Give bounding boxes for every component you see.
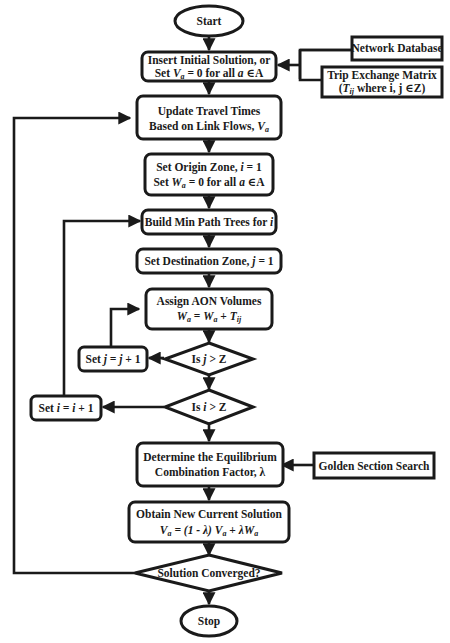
- determine-line2: Combination Factor, λ: [155, 466, 266, 478]
- origin-line2: Set Wa = 0 for all a ∈A: [153, 176, 265, 190]
- set-destination-zone-node: Set Destination Zone, j = 1: [137, 249, 281, 273]
- insert-initial-node: Insert Initial Solution, or Set Va = 0 f…: [142, 52, 276, 81]
- update-line2: Based on Link Flows, Va: [149, 120, 269, 134]
- stop-node: Stop: [181, 606, 237, 636]
- obtain-line1: Obtain New Current Solution: [136, 508, 282, 520]
- assign-aon-volumes-node: Assign AON Volumes Wa = Wa + Tij: [146, 289, 272, 329]
- flowchart: Start Insert Initial Solution, or Set Va…: [0, 0, 450, 643]
- update-travel-times-node: Update Travel Times Based on Link Flows,…: [137, 96, 281, 139]
- set-j-increment-node: Set j = j + 1: [79, 347, 147, 371]
- assign-line1: Assign AON Volumes: [157, 295, 262, 308]
- network-database-node: Network Database: [351, 37, 442, 60]
- trip-exchange-matrix-node: Trip Exchange Matrix (Tij where i, j ∈Z): [322, 67, 442, 97]
- build-label: Build Min Path Trees for i: [145, 216, 274, 228]
- insert-initial-line2: Set Va = 0 for all a ∈A: [155, 67, 264, 81]
- converged-label: Solution Converged?: [157, 567, 260, 580]
- set-origin-zone-node: Set Origin Zone, i = 1 Set Wa = 0 for al…: [145, 154, 273, 195]
- trip-matrix-line1: Trip Exchange Matrix: [327, 69, 437, 82]
- seti-label: Set i = i + 1: [39, 402, 94, 414]
- dest-label: Set Destination Zone, j = 1: [144, 255, 273, 268]
- insert-initial-line1: Insert Initial Solution, or: [148, 54, 271, 66]
- stop-label: Stop: [198, 615, 220, 628]
- golden-section-search-node: Golden Section Search: [314, 453, 434, 478]
- setj-label: Set j = j + 1: [86, 353, 141, 366]
- determine-equilibrium-node: Determine the Equilibrium Combination Fa…: [137, 443, 283, 486]
- obtain-line2: Va = (1 - λ) Va + λWa: [160, 524, 258, 538]
- network-database-label: Network Database: [351, 42, 442, 54]
- origin-line1: Set Origin Zone, i = 1: [156, 161, 262, 174]
- start-label: Start: [197, 15, 222, 27]
- is-i-gt-z-decision: Is i > Z: [165, 390, 253, 424]
- update-line1: Update Travel Times: [158, 105, 261, 118]
- golden-label: Golden Section Search: [319, 460, 431, 472]
- solution-converged-decision: Solution Converged?: [135, 555, 282, 591]
- determine-line1: Determine the Equilibrium: [143, 451, 277, 464]
- isj-label: Is j > Z: [191, 353, 226, 366]
- isi-label: Is i > Z: [191, 401, 226, 413]
- build-min-path-trees-node: Build Min Path Trees for i: [142, 210, 276, 234]
- start-node: Start: [175, 6, 243, 36]
- set-i-increment-node: Set i = i + 1: [31, 396, 101, 420]
- is-j-gt-z-decision: Is j > Z: [165, 343, 253, 375]
- edge-setj-assign: [111, 309, 139, 346]
- obtain-new-solution-node: Obtain New Current Solution Va = (1 - λ)…: [129, 502, 289, 542]
- assign-line2: Wa = Wa + Tij: [177, 310, 242, 324]
